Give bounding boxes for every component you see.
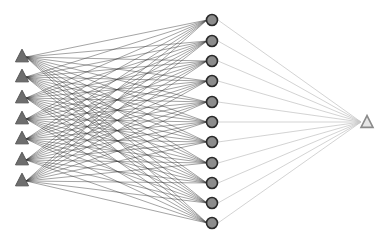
output-node-triangle-icon xyxy=(361,116,373,128)
input-node-triangle-icon xyxy=(16,173,29,186)
edge xyxy=(218,122,361,223)
input-node-triangle-icon xyxy=(16,111,29,124)
hidden-node-circle-icon xyxy=(207,218,218,229)
edge xyxy=(218,122,361,163)
edge xyxy=(218,61,361,122)
edge xyxy=(218,122,361,142)
input-node-triangle-icon xyxy=(16,69,29,82)
edge xyxy=(26,20,207,57)
edge xyxy=(26,61,207,77)
edge xyxy=(26,139,207,203)
input-node-triangle-icon xyxy=(16,49,29,62)
edge xyxy=(26,20,207,77)
input-node-triangle-icon xyxy=(16,90,29,103)
neural-network-diagram xyxy=(0,0,389,243)
edge xyxy=(26,122,207,160)
input-layer xyxy=(16,49,29,186)
hidden-node-circle-icon xyxy=(207,97,218,108)
input-node-triangle-icon xyxy=(16,131,29,144)
edge xyxy=(26,20,207,181)
hidden-layer xyxy=(207,15,218,229)
hidden-node-circle-icon xyxy=(207,36,218,47)
hidden-node-circle-icon xyxy=(207,117,218,128)
input-node-triangle-icon xyxy=(16,152,29,165)
input-hidden-edges xyxy=(26,20,207,223)
hidden-node-circle-icon xyxy=(207,15,218,26)
edge xyxy=(26,160,207,183)
hidden-output-edges xyxy=(218,20,361,223)
edge xyxy=(218,41,361,122)
hidden-node-circle-icon xyxy=(207,137,218,148)
edge xyxy=(218,81,361,122)
hidden-node-circle-icon xyxy=(207,198,218,209)
hidden-node-circle-icon xyxy=(207,56,218,67)
edge xyxy=(26,41,207,57)
hidden-node-circle-icon xyxy=(207,158,218,169)
edge xyxy=(218,122,361,183)
hidden-node-circle-icon xyxy=(207,178,218,189)
output-layer xyxy=(361,116,373,128)
hidden-node-circle-icon xyxy=(207,76,218,87)
edge xyxy=(26,139,207,183)
edge xyxy=(218,102,361,122)
edge xyxy=(218,122,361,203)
edge xyxy=(218,20,361,122)
